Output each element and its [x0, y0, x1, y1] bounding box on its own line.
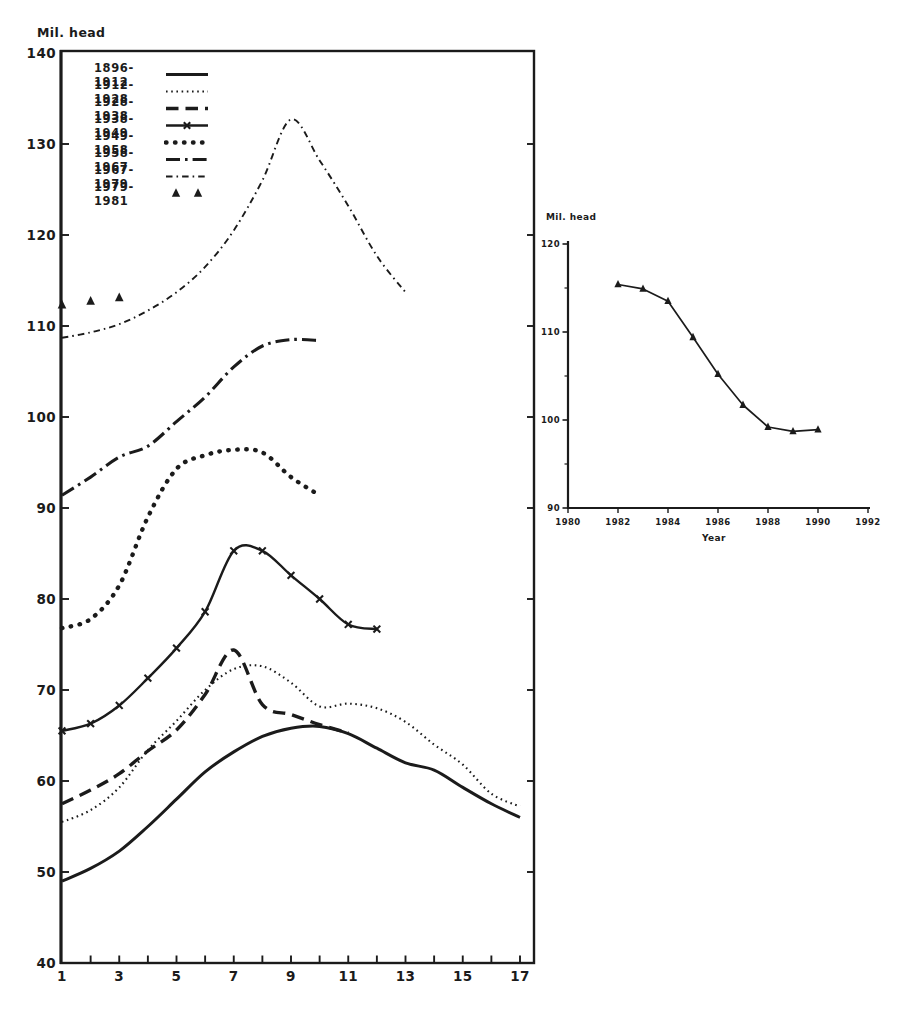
svg-text:3: 3 — [114, 968, 124, 984]
legend-item: 1979-1981 — [94, 185, 210, 202]
svg-text:1: 1 — [57, 968, 67, 984]
svg-text:1982: 1982 — [605, 517, 630, 527]
svg-text:7: 7 — [229, 968, 239, 984]
figure: Mil. head 405060708090100110120130140135… — [0, 0, 905, 1013]
inset-chart: 901001101201980198219841986198819901992 — [540, 195, 905, 560]
svg-text:17: 17 — [510, 968, 530, 984]
svg-text:11: 11 — [338, 968, 358, 984]
svg-text:90: 90 — [547, 503, 560, 513]
svg-text:70: 70 — [36, 682, 56, 698]
legend-label: 1979-1981 — [94, 180, 160, 208]
svg-text:100: 100 — [27, 409, 56, 425]
legend-line-sample — [164, 187, 210, 200]
legend-line-sample — [164, 85, 210, 98]
svg-text:1992: 1992 — [855, 517, 880, 527]
svg-text:110: 110 — [27, 318, 56, 334]
svg-text:15: 15 — [453, 968, 473, 984]
legend-line-sample — [164, 136, 210, 149]
svg-text:130: 130 — [27, 136, 56, 152]
svg-text:120: 120 — [27, 227, 56, 243]
svg-text:5: 5 — [172, 968, 182, 984]
legend-line-sample — [164, 170, 210, 183]
svg-text:9: 9 — [286, 968, 296, 984]
svg-text:120: 120 — [541, 239, 560, 249]
svg-text:80: 80 — [36, 591, 56, 607]
inset-chart-xlabel: Year — [702, 533, 726, 543]
svg-text:110: 110 — [541, 327, 560, 337]
legend-line-sample — [164, 119, 210, 132]
svg-text:140: 140 — [27, 45, 56, 61]
svg-text:60: 60 — [36, 773, 56, 789]
legend-line-sample — [164, 68, 210, 81]
main-chart: 4050607080901001101201301401357911131517 — [0, 0, 545, 1013]
svg-text:1986: 1986 — [705, 517, 730, 527]
svg-text:1988: 1988 — [755, 517, 780, 527]
legend: 1896-1912 1912-1928 1928-1938 1938-1949 … — [94, 66, 210, 202]
svg-text:1980: 1980 — [555, 517, 580, 527]
legend-line-sample — [164, 102, 210, 115]
svg-text:100: 100 — [541, 415, 560, 425]
svg-text:50: 50 — [36, 864, 56, 880]
svg-text:40: 40 — [36, 955, 56, 971]
svg-text:90: 90 — [36, 500, 56, 516]
svg-text:1990: 1990 — [805, 517, 830, 527]
svg-text:13: 13 — [396, 968, 416, 984]
svg-text:1984: 1984 — [655, 517, 680, 527]
legend-line-sample — [164, 153, 210, 166]
